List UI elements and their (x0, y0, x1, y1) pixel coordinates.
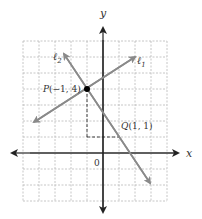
coordinate-plane: y x 0 P(−1, 4) Q(1, 1) ℓ1 ℓ2 (0, 0, 202, 219)
point-p-label: P(−1, 4) (42, 84, 81, 94)
y-axis-label: y (99, 7, 107, 20)
line-l2-label: ℓ2 (53, 51, 62, 65)
x-axis-label: x (186, 147, 193, 160)
point-p (84, 86, 90, 92)
line-l1-label: ℓ1 (137, 55, 146, 69)
origin-label: 0 (94, 158, 100, 168)
point-q-label: Q(1, 1) (121, 121, 153, 131)
